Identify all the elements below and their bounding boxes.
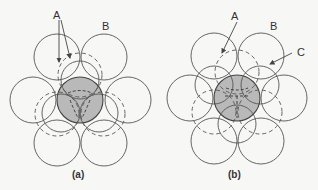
- sphere-b-bottom-right: [81, 120, 127, 166]
- sphere-b-bottom-left: [34, 120, 80, 166]
- sphere-b-left: [10, 77, 56, 123]
- sphere-b-top-right: [238, 33, 284, 79]
- caption-a: (a): [72, 169, 84, 180]
- sphere-b-bottom-left: [191, 118, 237, 164]
- sphere-b-right: [105, 77, 151, 123]
- label-c-panel-b: C: [297, 46, 305, 58]
- sphere-b-right: [261, 75, 307, 121]
- arrow-c: [270, 53, 292, 64]
- sphere-b-top-left: [191, 33, 237, 79]
- sphere-b-top-right: [81, 34, 127, 80]
- label-b-panel-a: B: [102, 20, 109, 32]
- arrow-a: [222, 22, 237, 53]
- caption-b: (b): [228, 169, 241, 180]
- label-b-panel-b: B: [270, 20, 277, 32]
- label-a-panel-a: A: [53, 9, 61, 21]
- arrow-a2: [61, 20, 70, 58]
- panel-a: [10, 20, 151, 166]
- sphere-b-left: [167, 75, 213, 121]
- close-packing-figure: A B (a) A B C (b): [0, 0, 318, 190]
- panel-b: [167, 22, 307, 164]
- sphere-b-top-left: [34, 34, 80, 80]
- label-a-panel-b: A: [231, 10, 239, 22]
